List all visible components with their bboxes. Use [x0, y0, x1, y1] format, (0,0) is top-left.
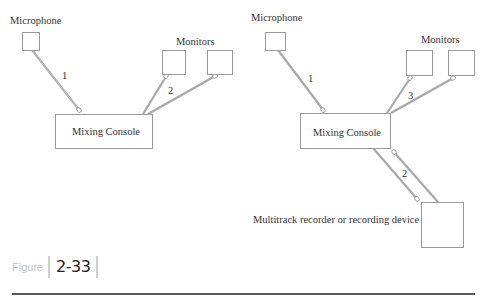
- cable-console-to-monitor-2: [148, 73, 218, 114]
- microphone-label: Microphone: [10, 15, 62, 26]
- cable-console-to-monitor-1: [143, 73, 169, 114]
- monitors-label: Monitors: [421, 34, 460, 45]
- recorder-label: Multitrack recorder or recording device: [253, 214, 420, 225]
- figure-label: Figure: [12, 261, 43, 273]
- figure-number: 2-33: [48, 256, 98, 278]
- monitor-box-1: [163, 51, 186, 75]
- right-diagram: Microphone Monitors Mixing Console Multi…: [251, 12, 475, 248]
- left-diagram: Microphone Monitors Mixing Console 1 2: [10, 15, 233, 149]
- mixing-console-label: Mixing Console: [313, 127, 381, 138]
- mixing-console-label: Mixing Console: [72, 126, 140, 137]
- microphone-box: [266, 33, 286, 51]
- cable-label-2: 2: [402, 168, 407, 179]
- monitor-box-1: [407, 51, 433, 76]
- cable-mic-to-console: [32, 50, 82, 113]
- bottom-rule: [12, 293, 475, 295]
- microphone-label: Microphone: [251, 12, 303, 23]
- recorder-box: [422, 203, 464, 248]
- microphone-box: [23, 33, 40, 51]
- monitors-label: Monitors: [176, 36, 215, 47]
- monitor-box-2: [208, 51, 233, 75]
- cable-label-1: 1: [308, 73, 313, 84]
- cable-label-3: 3: [408, 90, 413, 101]
- cable-mic-to-console: [278, 50, 326, 113]
- cable-label-1: 1: [62, 70, 67, 81]
- cable-label-2: 2: [168, 85, 173, 96]
- monitor-box-2: [449, 51, 475, 76]
